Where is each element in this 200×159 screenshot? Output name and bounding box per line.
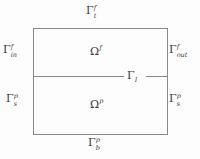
superscript: p <box>99 97 103 105</box>
label-top-boundary: Γft <box>86 5 94 16</box>
superscript: f <box>11 44 13 51</box>
superscript: p <box>177 93 181 100</box>
gamma-glyph: Γ <box>6 92 14 105</box>
superscript: f <box>177 44 179 51</box>
label-right-porous-boundary: Γps <box>169 93 177 104</box>
label-fluid-domain: Ωf <box>90 46 102 57</box>
label-bottom-boundary: Γpb <box>88 137 96 148</box>
superscript: p <box>96 137 100 144</box>
omega-glyph: Ω <box>90 45 99 58</box>
superscript: f <box>94 5 96 12</box>
gamma-glyph: Γ <box>127 69 135 82</box>
omega-glyph: Ω <box>90 98 99 111</box>
label-porous-domain: Ωp <box>90 99 103 110</box>
label-left-porous-boundary: Γps <box>6 93 14 104</box>
gamma-glyph: Γ <box>169 92 177 105</box>
label-outlet-boundary: Γfout <box>169 44 177 55</box>
superscript: p <box>14 93 18 100</box>
gamma-glyph: Γ <box>88 136 96 149</box>
gamma-glyph: Γ <box>3 43 11 56</box>
gamma-glyph: Γ <box>86 4 94 17</box>
label-interface: ΓI <box>127 70 137 81</box>
stokes-darcy-domain-diagram: Γft Γfin Γfout Γps Γps Γpb Ωf Ωp ΓI <box>0 0 200 159</box>
interface-line <box>33 76 168 77</box>
subscript: b <box>96 145 100 152</box>
subscript: out <box>177 52 188 59</box>
label-inlet-boundary: Γfin <box>3 44 11 55</box>
gamma-glyph: Γ <box>169 43 177 56</box>
superscript: f <box>99 44 101 52</box>
subscript: I <box>135 76 138 84</box>
subscript: in <box>11 52 17 59</box>
subscript: s <box>14 101 17 108</box>
subscript: t <box>94 13 97 20</box>
subscript: s <box>177 101 180 108</box>
